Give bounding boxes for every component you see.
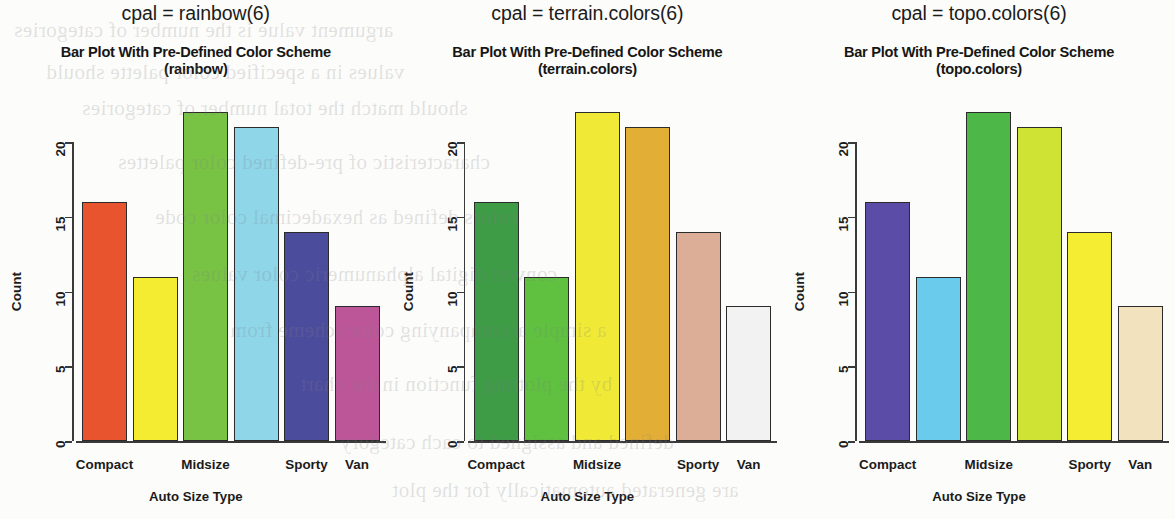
x-axis-tick-label: Compact [76, 457, 133, 472]
bar [575, 112, 620, 441]
y-axis-tick-label: 15 [836, 216, 851, 246]
y-axis-tick-label: 15 [53, 216, 68, 246]
x-axis-line [76, 441, 386, 443]
y-axis-tick-label: 0 [53, 441, 68, 471]
bar [524, 277, 569, 441]
y-axis-tick-label: 20 [836, 142, 851, 172]
bar [625, 127, 670, 441]
bar [234, 127, 279, 441]
bar [82, 202, 127, 441]
bar [474, 202, 519, 441]
x-axis-tick-label: Sporty [1068, 457, 1110, 472]
x-axis-tick-label: Midsize [573, 457, 621, 472]
y-axis-tick-label: 10 [444, 291, 459, 321]
x-axis-tick-label: Van [1128, 457, 1152, 472]
chart-panel-rainbow: cpal = rainbow(6) Bar Plot With Pre-Defi… [0, 0, 392, 519]
chart-panel-topo: cpal = topo.colors(6) Bar Plot With Pre-… [783, 0, 1175, 519]
x-axis-tick-label: Sporty [677, 457, 719, 472]
bar-chart-terrain: 05101520CountCompactMidsizeSportyVanAuto… [392, 0, 784, 519]
bar [133, 277, 178, 441]
bar [726, 306, 771, 441]
y-axis-tick-label: 10 [53, 291, 68, 321]
bar [284, 232, 329, 441]
y-axis-tick-label: 15 [444, 216, 459, 246]
y-axis-tick-label: 0 [444, 441, 459, 471]
bar-chart-topo: 05101520CountCompactMidsizeSportyVanAuto… [783, 0, 1175, 519]
y-axis-label: Count [792, 261, 807, 321]
x-axis-tick-label: Sporty [285, 457, 327, 472]
y-axis-tick-label: 5 [444, 366, 459, 396]
y-axis-line [72, 142, 74, 441]
x-axis-label: Auto Size Type [783, 489, 1175, 504]
y-axis-tick-label: 0 [836, 441, 851, 471]
x-axis-tick-label: Midsize [181, 457, 229, 472]
bar [1118, 306, 1163, 441]
bar [966, 112, 1011, 441]
bar [183, 112, 228, 441]
x-axis-tick-label: Van [345, 457, 369, 472]
x-axis-tick-label: Van [737, 457, 761, 472]
y-axis-tick-label: 20 [444, 142, 459, 172]
figure-page: cpal = rainbow(6) Bar Plot With Pre-Defi… [0, 0, 1175, 519]
x-axis-line [468, 441, 778, 443]
y-axis-tick-label: 5 [53, 366, 68, 396]
bar [676, 232, 721, 441]
x-axis-tick-label: Compact [859, 457, 916, 472]
y-axis-label: Count [9, 261, 24, 321]
y-axis-tick-label: 20 [53, 142, 68, 172]
y-axis-tick-label: 10 [836, 291, 851, 321]
y-axis-label: Count [400, 261, 415, 321]
x-axis-tick-label: Midsize [965, 457, 1013, 472]
y-axis-tick-label: 5 [836, 366, 851, 396]
bar [1017, 127, 1062, 441]
bar [916, 277, 961, 441]
bar-chart-rainbow: 05101520CountCompactMidsizeSportyVanAuto… [0, 0, 392, 519]
x-axis-tick-label: Compact [467, 457, 524, 472]
bar [335, 306, 380, 441]
bar [865, 202, 910, 441]
x-axis-label: Auto Size Type [392, 489, 784, 504]
bar [1067, 232, 1112, 441]
y-axis-line [855, 142, 857, 441]
y-axis-line [464, 142, 466, 441]
chart-panel-terrain: cpal = terrain.colors(6) Bar Plot With P… [392, 0, 784, 519]
x-axis-label: Auto Size Type [0, 489, 392, 504]
x-axis-line [859, 441, 1169, 443]
